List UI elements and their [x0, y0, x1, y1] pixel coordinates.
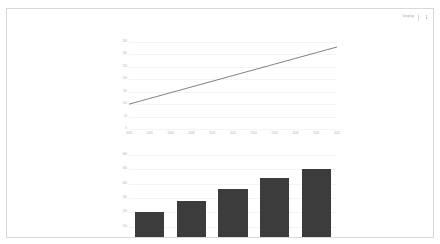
line-chart-x-tick: 2010 [209, 133, 215, 136]
kebab-menu-icon[interactable] [423, 13, 429, 22]
line-chart-x-tick: 2006 [168, 133, 174, 136]
bar[interactable] [302, 169, 331, 238]
bar[interactable] [218, 189, 247, 238]
line-chart-x-tick: 2022 [334, 133, 340, 136]
gridline [129, 129, 337, 130]
header-divider [418, 14, 419, 21]
bar[interactable] [177, 201, 206, 238]
bar[interactable] [260, 178, 289, 238]
line-chart-series [129, 42, 337, 129]
line-chart-x-tick: 2016 [272, 133, 278, 136]
bar[interactable] [135, 212, 164, 238]
line-chart-x-tick: 2018 [292, 133, 298, 136]
display-label: Display [403, 15, 414, 18]
bar-chart: 0100200300400500600 [129, 155, 337, 238]
line-chart-x-tick: 2014 [251, 133, 257, 136]
line-chart: 050100150200250300350 [129, 42, 337, 129]
line-chart-x-tick: 2005 [147, 133, 153, 136]
bar-chart-series [129, 155, 337, 238]
line-chart-x-tick: 2012 [230, 133, 236, 136]
card-header: Display [403, 11, 429, 23]
line-chart-x-tick: 2003 [126, 133, 132, 136]
line-chart-x-tick: 2020 [313, 133, 319, 136]
dashboard-card: Display 050100150200250300350 2003200520… [6, 8, 434, 238]
line-chart-x-tick: 2008 [188, 133, 194, 136]
line-chart-x-axis: 2003200520062008201020122014201620182020… [127, 133, 339, 141]
